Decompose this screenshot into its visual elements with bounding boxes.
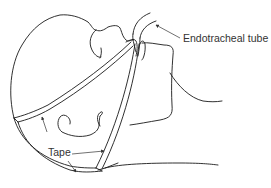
- face-outline: [90, 30, 101, 58]
- head-outline: [11, 15, 133, 118]
- tape-front-band-a: [96, 44, 135, 168]
- tube-label-arrow: [156, 25, 180, 38]
- tape-lower-band-a: [14, 118, 96, 168]
- diagram-canvas: [0, 0, 271, 188]
- tape-upper-band-a: [14, 42, 131, 118]
- shoulder-line: [105, 163, 218, 168]
- ear: [58, 112, 102, 137]
- endotracheal-tube-line-2: [140, 21, 156, 38]
- endotracheal-tube-line-1: [133, 13, 150, 34]
- tape-arrow-right: [72, 151, 104, 154]
- neck-line: [170, 73, 222, 102]
- tape-arrow-upper: [42, 117, 47, 132]
- label-tape: Tape: [48, 147, 71, 158]
- label-endotracheal-tube: Endotracheal tube: [183, 33, 268, 44]
- shoulder-line-left: [98, 163, 118, 170]
